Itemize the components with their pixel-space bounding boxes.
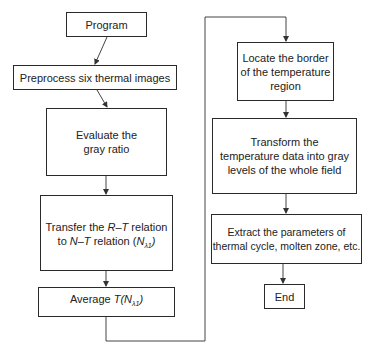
node-label-line: thermal cycle, molten zone, etc. bbox=[213, 239, 361, 253]
node-transform: Transform the temperature data into gray… bbox=[212, 118, 357, 194]
node-program: Program bbox=[66, 12, 147, 37]
node-locate: Locate the border of the temperature reg… bbox=[237, 42, 334, 101]
node-label-line: levels of the whole field bbox=[220, 163, 349, 177]
node-label-line: Evaluate the bbox=[76, 128, 137, 142]
node-label: Average T(Nλ1) bbox=[70, 292, 143, 311]
node-label-line: temperature data into gray bbox=[220, 149, 349, 163]
node-evaluate: Evaluate the gray ratio bbox=[46, 108, 167, 176]
node-preprocess: Preprocess six thermal images bbox=[13, 65, 177, 90]
node-end: End bbox=[264, 284, 305, 309]
node-extract: Extract the parameters of thermal cycle,… bbox=[211, 214, 362, 264]
node-transfer: Transfer the R–T relation to N–T relatio… bbox=[40, 195, 173, 271]
node-label-line: of the temperature bbox=[241, 65, 331, 79]
node-label: Preprocess six thermal images bbox=[20, 71, 170, 85]
node-label: Program bbox=[85, 18, 127, 32]
node-label-line: Transfer the R–T relation bbox=[46, 220, 168, 234]
node-label-line: Extract the parameters of bbox=[213, 225, 361, 239]
node-label-line: gray ratio bbox=[76, 142, 137, 156]
node-label-line: Locate the border bbox=[241, 51, 331, 65]
node-label-line: region bbox=[241, 79, 331, 93]
node-label: End bbox=[275, 290, 295, 304]
node-label-line: to N–T relation (Nλ1) bbox=[46, 234, 168, 253]
node-average: Average T(Nλ1) bbox=[38, 287, 175, 317]
node-label-line: Transform the bbox=[220, 135, 349, 149]
